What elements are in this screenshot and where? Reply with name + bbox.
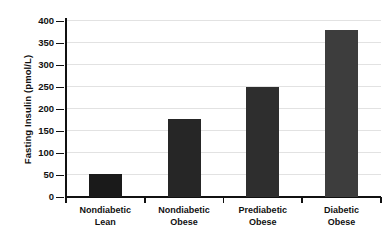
y-tick-mark <box>56 109 64 111</box>
bar-chart: Fasting Insulin (pmol/L) 050100150200250… <box>0 0 391 243</box>
y-tick-mark <box>56 87 64 89</box>
x-axis-label: NondiabeticLean <box>66 205 145 228</box>
x-tick-mark <box>380 197 382 203</box>
y-tick-label: 150 <box>38 125 54 136</box>
y-tick-label: 100 <box>38 147 54 158</box>
y-tick-label: 250 <box>38 81 54 92</box>
y-tick-label: 200 <box>38 103 54 114</box>
x-tick-mark <box>223 197 225 203</box>
bar <box>325 30 358 197</box>
y-tick-label: 0 <box>49 191 54 202</box>
bar <box>89 174 122 197</box>
x-tick-mark <box>301 197 303 203</box>
y-tick-mark <box>56 131 64 133</box>
y-tick-mark <box>56 65 64 67</box>
y-axis-title: Fasting Insulin (pmol/L) <box>22 25 33 195</box>
y-tick-mark <box>56 175 64 177</box>
x-axis-label: PrediabeticObese <box>224 205 303 228</box>
y-tick-mark <box>56 43 64 45</box>
y-tick-label: 300 <box>38 59 54 70</box>
bar <box>246 87 279 197</box>
y-tick-mark <box>56 21 64 23</box>
y-tick-label: 350 <box>38 37 54 48</box>
x-axis-label: NondiabeticObese <box>145 205 224 228</box>
y-tick-mark <box>56 153 64 155</box>
y-tick-label: 50 <box>43 169 54 180</box>
plot-area <box>66 20 381 197</box>
x-tick-mark <box>144 197 146 203</box>
y-tick-label: 400 <box>38 15 54 26</box>
y-tick-mark <box>56 197 64 199</box>
x-tick-mark <box>65 197 67 203</box>
bar <box>168 119 201 197</box>
x-axis-label: DiabeticObese <box>302 205 381 228</box>
